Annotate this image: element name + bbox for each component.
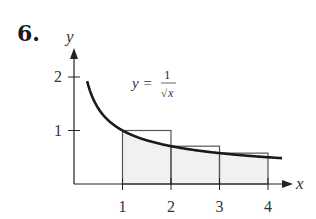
equation-numerator: 1 <box>164 67 171 82</box>
x-tick-label-4: 4 <box>264 198 272 215</box>
x-tick-label-1: 1 <box>119 198 127 215</box>
chart: 123412 x y y = 1 √ x <box>0 0 316 219</box>
equation-label: y = 1 √ x <box>130 67 176 100</box>
x-tick-label-2: 2 <box>167 198 175 215</box>
y-axis-label: y <box>64 27 74 46</box>
x-axis-arrow-icon <box>282 180 293 188</box>
y-axis-arrow-icon <box>70 48 78 59</box>
y-tick-label-1: 1 <box>54 122 62 139</box>
y-tick-label-2: 2 <box>54 68 62 85</box>
equation-denominator: x <box>167 86 174 100</box>
x-axis-label: x <box>295 174 304 193</box>
equation-lhs: y = <box>130 75 153 91</box>
x-tick-label-3: 3 <box>216 198 224 215</box>
sqrt-sign: √ <box>161 87 168 99</box>
